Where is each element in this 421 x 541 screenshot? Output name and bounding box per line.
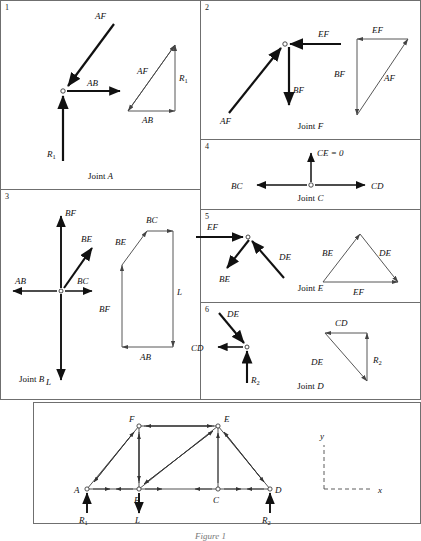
label-be-polygon: BE: [322, 248, 333, 258]
label-be-polygon: BE: [115, 237, 126, 247]
joint-f-pin: [283, 42, 287, 46]
label-l-polygon: L: [176, 287, 182, 297]
vector-be-joint: [227, 240, 249, 268]
label-bc-joint: BC: [77, 276, 89, 286]
panel-1-caption-joint: A: [108, 171, 114, 181]
truss-label-c: C: [213, 495, 220, 505]
panel-4-caption-joint: C: [317, 193, 323, 203]
label-ce-zero: CE = 0: [317, 148, 344, 158]
panel-truss-overview: A B C D F E R1 L R2 y x: [33, 402, 421, 524]
joint-b-pin: [59, 289, 63, 293]
label-r1-joint: R1: [46, 149, 56, 160]
label-r2-polygon: R2: [372, 355, 382, 366]
figure-caption-text: Figure 1: [195, 531, 226, 541]
arrow-be-at-e: [144, 431, 213, 484]
label-ab-joint: AB: [86, 78, 98, 88]
truss-label-e: E: [223, 414, 230, 424]
panel-joint-a: 1 AF AB R1 AF R1 AB: [0, 0, 201, 190]
label-de-joint: DE: [278, 252, 291, 262]
polygon-edge-be: [323, 234, 360, 282]
load-l-label: L: [134, 515, 140, 525]
panel-3-caption: Joint B: [19, 374, 44, 384]
panel-2-caption: Joint F: [201, 121, 420, 131]
truss-label-f: F: [128, 414, 135, 424]
panel-5-caption: Joint E: [201, 283, 420, 293]
panel-5-caption-word: Joint: [298, 283, 316, 293]
truss-label-a: A: [73, 485, 80, 495]
polygon-edge-af: [128, 45, 175, 111]
label-af-polygon: AF: [136, 66, 148, 76]
label-bc-polygon: BC: [146, 215, 158, 225]
polygon-edge-de: [360, 234, 398, 282]
load-r1-label: R1: [78, 515, 88, 526]
label-bf-joint: BF: [65, 208, 76, 218]
truss-joint-a: [85, 487, 89, 491]
truss-joint-b: [137, 487, 141, 491]
label-ab-joint: AB: [14, 276, 26, 286]
panel-4-caption: Joint C: [201, 193, 420, 203]
label-ab-polygon: AB: [139, 352, 151, 362]
label-bc-joint: BC: [231, 181, 243, 191]
panel-1-diagram: AF AB R1 AF R1 AB: [1, 1, 202, 191]
load-r2-label: R2: [261, 515, 271, 526]
label-cd-joint: CD: [191, 343, 204, 353]
label-bf-polygon: BF: [99, 304, 110, 314]
label-cd-polygon: CD: [335, 318, 348, 328]
panel-3-caption-word: Joint: [19, 374, 37, 384]
joint-c-pin: [309, 183, 313, 187]
joint-d-pin: [245, 345, 249, 349]
vector-af-joint: [229, 48, 281, 113]
panel-4-caption-word: Joint: [298, 193, 316, 203]
label-bf-polygon: BF: [334, 69, 345, 79]
polygon-edge-af: [357, 39, 408, 115]
vector-af-joint: [68, 24, 114, 86]
arrow-ed-at-d: [224, 432, 264, 482]
panel-6-caption-word: Joint: [297, 381, 315, 391]
panel-2-caption-joint: F: [318, 121, 324, 131]
polygon-edge-de: [325, 333, 367, 381]
panel-joint-b: 3 BF BE BC AB L BC BE BF L AB Joint B: [0, 189, 201, 400]
arrow-af-at-f: [94, 432, 134, 482]
joint-e-pin: [246, 235, 250, 239]
joint-a-pin: [61, 89, 65, 93]
panel-3-caption-joint: B: [39, 374, 45, 384]
truss-label-d: D: [274, 485, 282, 495]
label-de-polygon: DE: [378, 248, 391, 258]
panel-joint-f: 2 AF EF BF EF BF AF Joint F: [200, 0, 421, 140]
panel-joint-d: 6 DE CD R2 CD DE R2 Joint D: [200, 302, 421, 400]
truss-joint-c: [216, 487, 220, 491]
label-de-polygon: DE: [310, 357, 323, 367]
label-ef-joint: EF: [206, 222, 218, 232]
panel-2-diagram: AF EF BF EF BF AF: [201, 1, 421, 141]
label-bf-joint: BF: [293, 85, 304, 95]
truss-joint-d: [268, 487, 272, 491]
figure-caption: Figure 1: [0, 531, 421, 541]
label-r1-polygon: R1: [178, 73, 188, 84]
label-de-joint: DE: [226, 309, 239, 319]
label-l-joint: L: [45, 377, 51, 387]
panel-joint-e: 5 EF BE DE BE DE EF Joint E: [200, 209, 421, 303]
panel-3-diagram: BF BE BC AB L BC BE BF L AB: [1, 190, 202, 401]
label-af-polygon: AF: [383, 73, 395, 83]
truss-diagram: A B C D F E R1 L R2 y x: [34, 403, 421, 525]
panel-6-caption: Joint D: [201, 381, 420, 391]
label-cd-joint: CD: [371, 181, 384, 191]
label-ef-polygon: EF: [371, 25, 383, 35]
truss-joint-e: [216, 424, 220, 428]
axis-x-label: x: [377, 485, 382, 495]
panel-2-caption-word: Joint: [298, 121, 316, 131]
panel-6-caption-joint: D: [317, 381, 324, 391]
label-be-joint: BE: [81, 234, 92, 244]
label-af-joint: AF: [94, 11, 106, 21]
panel-1-caption-word: Joint: [88, 171, 106, 181]
panel-5-caption-joint: E: [318, 283, 324, 293]
panel-joint-c: 4 CE = 0 BC CD Joint C: [200, 139, 421, 210]
panel-1-caption: Joint A: [1, 171, 200, 181]
label-ab-polygon: AB: [141, 115, 153, 125]
truss-joint-f: [137, 424, 141, 428]
axis-y-label: y: [319, 431, 324, 441]
label-ef-joint: EF: [317, 29, 329, 39]
